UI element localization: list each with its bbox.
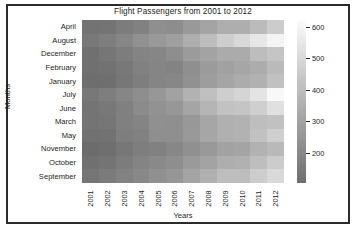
colorbar-tick: 200 [306, 149, 324, 158]
heatmap-cell [133, 20, 150, 34]
colorbar: 200300400500600 [297, 20, 306, 183]
heatmap-cell [267, 156, 284, 170]
x-axis-title: Years [82, 211, 284, 220]
y-axis-tick-labels: AprilAugustDecemberFebruaryJanuaryJulyJu… [18, 20, 79, 183]
heatmap-cell [217, 88, 234, 102]
heatmap-cell [267, 47, 284, 61]
x-tick-label: 2009 [217, 185, 234, 213]
x-axis-tick-labels: 2001200220032004200520062007200820092010… [82, 185, 284, 213]
heatmap-cell [234, 101, 251, 115]
heatmap-cell [267, 169, 284, 183]
heatmap-cell [183, 129, 200, 143]
heatmap-cell [149, 129, 166, 143]
heatmap-cell [217, 129, 234, 143]
heatmap-cell [183, 61, 200, 75]
colorbar-tick: 500 [306, 54, 324, 63]
heatmap-cell [217, 34, 234, 48]
heatmap-cell [183, 74, 200, 88]
heatmap-cell [99, 101, 116, 115]
heatmap-cell [200, 156, 217, 170]
colorbar-tick-label: 500 [312, 54, 324, 63]
heatmap-cell [116, 142, 133, 156]
heatmap-cell [250, 20, 267, 34]
heatmap-cell [183, 169, 200, 183]
colorbar-tick-mark [306, 58, 310, 59]
heatmap-cell [200, 61, 217, 75]
y-tick-label: October [18, 156, 79, 170]
heatmap-cell [166, 169, 183, 183]
heatmap-cell [99, 88, 116, 102]
heatmap-cell [166, 101, 183, 115]
colorbar-tick-mark [306, 27, 310, 28]
heatmap-cell [267, 74, 284, 88]
heatmap-cell [149, 88, 166, 102]
heatmap-cell [234, 20, 251, 34]
heatmap-cell [267, 88, 284, 102]
heatmap-cell [234, 47, 251, 61]
heatmap-cell [133, 129, 150, 143]
y-tick-label: February [18, 61, 79, 75]
colorbar-tick-label: 600 [312, 23, 324, 32]
heatmap-cell [183, 20, 200, 34]
heatmap-cell [82, 129, 99, 143]
heatmap-cell [267, 142, 284, 156]
heatmap-cell [217, 156, 234, 170]
x-tick-label: 2005 [149, 185, 166, 213]
colorbar-tick-label: 200 [312, 149, 324, 158]
heatmap-cell [200, 47, 217, 61]
heatmap-cell [217, 115, 234, 129]
heatmap-cell [166, 129, 183, 143]
heatmap-cell [234, 74, 251, 88]
heatmap-cell [82, 34, 99, 48]
heatmap-cell [116, 169, 133, 183]
heatmap-cell [217, 47, 234, 61]
x-tick-label: 2007 [183, 185, 200, 213]
x-tick-label: 2003 [116, 185, 133, 213]
heatmap-cell [149, 115, 166, 129]
heatmap-cell [149, 101, 166, 115]
y-tick-label: December [18, 47, 79, 61]
heatmap-cell [99, 74, 116, 88]
heatmap-cell [267, 20, 284, 34]
colorbar-tick: 300 [306, 117, 324, 126]
x-tick-label: 2012 [267, 185, 284, 213]
heatmap-cell [166, 47, 183, 61]
heatmap-cell [166, 88, 183, 102]
heatmap-cell [200, 88, 217, 102]
heatmap-cell [133, 142, 150, 156]
heatmap-cell [99, 34, 116, 48]
heatmap-cell [183, 142, 200, 156]
heatmap-cell [149, 20, 166, 34]
y-tick-label: September [18, 169, 79, 183]
heatmap-cell [99, 47, 116, 61]
heatmap-grid [82, 20, 284, 183]
heatmap-cell [234, 34, 251, 48]
heatmap-cell [82, 156, 99, 170]
heatmap-cell [217, 142, 234, 156]
heatmap-cell [267, 61, 284, 75]
heatmap-cell [82, 169, 99, 183]
heatmap-cell [250, 129, 267, 143]
heatmap-cell [166, 74, 183, 88]
y-axis-title: Months [3, 77, 12, 117]
heatmap-cell [99, 61, 116, 75]
colorbar-tick-mark [306, 121, 310, 122]
heatmap-cell [267, 115, 284, 129]
heatmap-cell [99, 142, 116, 156]
heatmap-cell [82, 47, 99, 61]
heatmap-cell [116, 115, 133, 129]
heatmap-cell [250, 101, 267, 115]
heatmap-cell [133, 156, 150, 170]
x-tick-label: 2004 [133, 185, 150, 213]
heatmap-cell [217, 101, 234, 115]
heatmap-cell [133, 115, 150, 129]
heatmap-cell [234, 88, 251, 102]
heatmap-cell [217, 169, 234, 183]
heatmap-cell [267, 129, 284, 143]
heatmap-cell [267, 34, 284, 48]
heatmap-cell [217, 74, 234, 88]
heatmap-cell [116, 20, 133, 34]
heatmap-cell [200, 169, 217, 183]
heatmap-cell [133, 61, 150, 75]
y-tick-label: January [18, 74, 79, 88]
